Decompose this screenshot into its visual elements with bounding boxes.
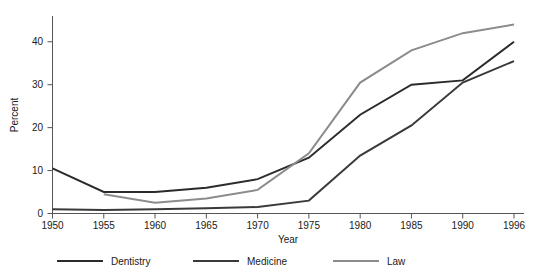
chart-legend: DentistryMedicineLaw bbox=[57, 256, 406, 267]
series-line-law bbox=[104, 25, 514, 203]
y-tick-label: 40 bbox=[32, 36, 44, 47]
x-tick-label: 1996 bbox=[503, 220, 526, 231]
x-axis-title: Year bbox=[278, 234, 299, 245]
chart-canvas: 010203040 195019551960196519701975198019… bbox=[0, 0, 540, 276]
x-tick-label: 1990 bbox=[452, 220, 475, 231]
y-axis-title: Percent bbox=[9, 98, 20, 133]
x-tick-label: 1970 bbox=[246, 220, 269, 231]
y-tick-label: 0 bbox=[37, 208, 43, 219]
x-tick-labels: 1950195519601965197019751980198519901996 bbox=[41, 220, 525, 231]
y-tick-label: 30 bbox=[32, 79, 44, 90]
y-tick-label: 20 bbox=[32, 122, 44, 133]
x-tick-label: 1980 bbox=[349, 220, 372, 231]
legend-label-law: Law bbox=[387, 256, 406, 267]
series-line-dentistry bbox=[53, 42, 515, 192]
x-tick-label: 1950 bbox=[41, 220, 64, 231]
series-line-medicine bbox=[53, 61, 515, 210]
line-chart: 010203040 195019551960196519701975198019… bbox=[0, 0, 540, 276]
series-lines bbox=[53, 25, 515, 210]
x-tick-label: 1985 bbox=[400, 220, 423, 231]
x-tick-label: 1965 bbox=[195, 220, 218, 231]
x-tick-marks bbox=[53, 214, 515, 219]
y-tick-marks bbox=[48, 42, 53, 214]
y-tick-label: 10 bbox=[32, 165, 44, 176]
legend-label-dentistry: Dentistry bbox=[111, 256, 150, 267]
legend-label-medicine: Medicine bbox=[247, 256, 287, 267]
x-tick-label: 1960 bbox=[144, 220, 167, 231]
x-tick-label: 1975 bbox=[298, 220, 321, 231]
y-tick-labels: 010203040 bbox=[32, 36, 44, 219]
x-tick-label: 1955 bbox=[93, 220, 116, 231]
